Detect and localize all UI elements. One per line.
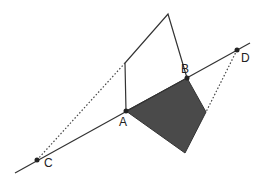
- point-d: [235, 48, 240, 53]
- label-b: B: [181, 62, 189, 76]
- point-c: [35, 158, 40, 163]
- point-b: [185, 76, 190, 81]
- dotted-segment-c: [37, 63, 125, 160]
- label-a: A: [119, 115, 127, 129]
- label-d: D: [241, 51, 250, 65]
- reflection-diagram: ABCD: [0, 0, 262, 178]
- label-c: C: [44, 156, 53, 170]
- line-of-reflection: [15, 43, 250, 173]
- point-a: [124, 109, 129, 114]
